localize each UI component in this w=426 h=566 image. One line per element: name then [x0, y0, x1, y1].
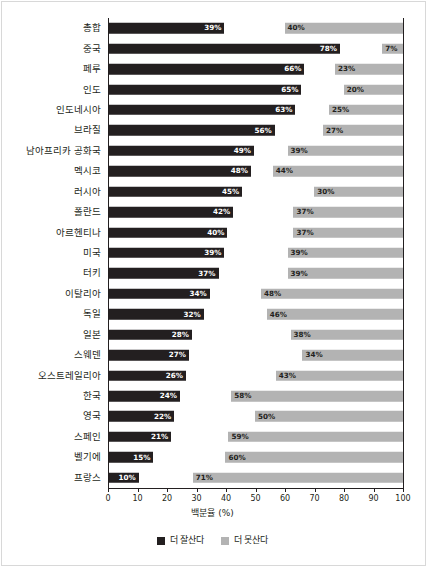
chart-row: 터키37%39% — [108, 263, 404, 283]
bar-value-label: 25% — [332, 106, 349, 113]
bar-better-off: 32% — [109, 309, 204, 320]
bar-better-off: 27% — [109, 350, 189, 361]
category-label: 한국 — [83, 391, 101, 401]
x-axis-tick — [197, 488, 198, 492]
legend-item: 더 잘산다 — [157, 536, 205, 545]
legend-swatch-icon — [157, 537, 165, 545]
bar-value-label: 30% — [317, 188, 334, 195]
bar-value-label: 59% — [231, 433, 248, 440]
bar-value-label: 48% — [264, 290, 281, 297]
bar-value-label: 42% — [213, 209, 230, 216]
bar-value-label: 10% — [118, 474, 135, 481]
chart-row: 스웨덴27%34% — [108, 345, 404, 365]
chart-row: 총합39%40% — [108, 18, 404, 38]
bar-value-label: 49% — [234, 147, 251, 154]
bar-worse-off: 7% — [382, 43, 403, 54]
chart-row: 남아프리카 공화국49%39% — [108, 141, 404, 161]
bar-value-label: 39% — [291, 249, 308, 256]
bar-worse-off: 59% — [228, 432, 403, 443]
bar-value-label: 39% — [204, 25, 221, 32]
bar-worse-off: 39% — [288, 146, 403, 157]
bar-better-off: 65% — [109, 84, 301, 95]
bar-value-label: 39% — [291, 147, 308, 154]
bar-value-label: 23% — [338, 65, 355, 72]
bar-value-label: 58% — [234, 392, 251, 399]
category-label: 러시아 — [74, 187, 101, 197]
bar-value-label: 38% — [294, 331, 311, 338]
category-label: 중국 — [83, 44, 101, 54]
bar-better-off: 10% — [109, 473, 139, 484]
bar-better-off: 24% — [109, 391, 180, 402]
x-axis-tick — [344, 488, 345, 492]
legend-item: 더 못산다 — [221, 536, 269, 545]
bar-worse-off: 23% — [335, 64, 403, 75]
bar-better-off: 45% — [109, 186, 242, 197]
bar-worse-off: 30% — [314, 186, 403, 197]
x-axis-tick-label: 60 — [280, 494, 290, 503]
bar-value-label: 21% — [151, 433, 168, 440]
bar-value-label: 34% — [305, 352, 322, 359]
x-axis-tick-label: 50 — [250, 494, 260, 503]
bar-worse-off: 43% — [276, 370, 403, 381]
bar-better-off: 28% — [109, 329, 192, 340]
category-label: 터키 — [83, 269, 101, 279]
category-label: 아르헨티나 — [56, 228, 101, 238]
bar-worse-off: 60% — [225, 452, 403, 463]
category-label: 오스트레일리아 — [38, 371, 101, 381]
bar-value-label: 66% — [284, 65, 301, 72]
chart-row: 미국39%39% — [108, 243, 404, 263]
bar-value-label: 63% — [275, 106, 292, 113]
category-label: 남아프리카 공화국 — [26, 146, 101, 156]
x-axis-tick-label: 40 — [221, 494, 231, 503]
chart-row: 일본28%38% — [108, 325, 404, 345]
bar-value-label: 40% — [288, 25, 305, 32]
chart-row: 벨기에15%60% — [108, 447, 404, 467]
bar-value-label: 71% — [196, 474, 213, 481]
category-label: 폴란드 — [74, 207, 101, 217]
x-axis-tick — [138, 488, 139, 492]
category-label: 이탈리아 — [65, 289, 101, 299]
bar-worse-off: 38% — [291, 329, 403, 340]
category-label: 스페인 — [74, 432, 101, 442]
category-label: 총합 — [83, 23, 101, 33]
legend-label: 더 잘산다 — [170, 536, 205, 545]
bar-worse-off: 40% — [285, 23, 403, 34]
x-axis: 0102030405060708090100 — [108, 488, 404, 489]
bar-worse-off: 20% — [344, 84, 403, 95]
bar-value-label: 40% — [207, 229, 224, 236]
bar-value-label: 20% — [347, 86, 364, 93]
bar-worse-off: 39% — [288, 248, 403, 259]
x-axis-tick — [315, 488, 316, 492]
category-label: 벨기에 — [74, 453, 101, 463]
bar-worse-off: 71% — [193, 473, 403, 484]
bar-worse-off: 44% — [273, 166, 403, 177]
x-axis-tick — [285, 488, 286, 492]
bar-worse-off: 25% — [329, 105, 403, 116]
bar-better-off: 66% — [109, 64, 304, 75]
x-axis-tick-label: 0 — [105, 494, 110, 503]
bar-worse-off: 58% — [231, 391, 403, 402]
chart-row: 이탈리아34%48% — [108, 284, 404, 304]
category-label: 스웨덴 — [74, 350, 101, 360]
x-axis-tick-label: 90 — [368, 494, 378, 503]
legend-swatch-icon — [221, 537, 229, 545]
chart-row: 멕시코48%44% — [108, 161, 404, 181]
chart-row: 러시아45%30% — [108, 181, 404, 201]
bar-value-label: 56% — [255, 127, 272, 134]
bar-value-label: 22% — [154, 413, 171, 420]
chart-row: 중국78%7% — [108, 38, 404, 58]
category-label: 인도네시아 — [56, 105, 101, 115]
x-axis-title: 백분율 (%) — [0, 506, 425, 519]
bar-better-off: 39% — [109, 248, 224, 259]
chart-row: 폴란드42%37% — [108, 202, 404, 222]
category-label: 미국 — [83, 248, 101, 258]
x-axis-tick-label: 10 — [132, 494, 142, 503]
bar-value-label: 27% — [326, 127, 343, 134]
bar-value-label: 65% — [281, 86, 298, 93]
bar-better-off: 34% — [109, 289, 210, 300]
category-label: 일본 — [83, 330, 101, 340]
chart-row: 영국22%50% — [108, 406, 404, 426]
bar-value-label: 26% — [166, 372, 183, 379]
bar-value-label: 78% — [320, 45, 337, 52]
